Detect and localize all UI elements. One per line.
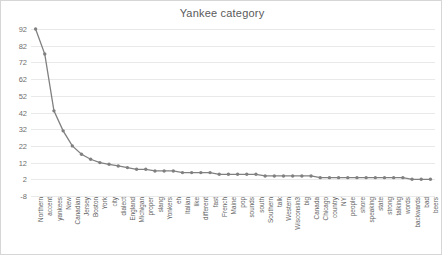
x-tick-label-text: eh	[176, 197, 182, 204]
data-point	[383, 176, 386, 179]
data-point	[61, 129, 64, 132]
x-tick-label: Italian	[185, 197, 191, 214]
y-tick-label: 72	[3, 58, 27, 67]
x-tick-label-text: Northern	[38, 197, 44, 222]
x-tick-label-text: sounds	[249, 197, 255, 218]
data-point	[236, 173, 239, 176]
x-tick-label: speaking	[369, 197, 375, 223]
y-tick-label: 42	[3, 108, 27, 117]
x-tick-label-text: state	[378, 197, 384, 211]
x-tick-label-text: York	[102, 197, 108, 210]
x-tick-label-text: country	[332, 197, 338, 218]
x-tick-label: eh	[176, 197, 182, 204]
x-tick-label: slang	[158, 197, 164, 212]
data-point	[218, 173, 221, 176]
series-markers	[34, 27, 432, 181]
x-tick-label-text: dialect	[121, 197, 127, 215]
x-tick-label: New	[66, 197, 72, 210]
x-tick-label-text: south	[259, 197, 265, 213]
x-tick-label: like	[194, 197, 200, 207]
data-point	[273, 174, 276, 177]
x-tick-label: Canadian	[75, 197, 81, 224]
x-tick-label-text: NY	[341, 197, 347, 206]
x-tick-label-text: Western	[286, 197, 292, 221]
data-point	[89, 158, 92, 161]
y-tick-label: 22	[3, 141, 27, 150]
data-point	[208, 171, 211, 174]
data-point	[126, 166, 129, 169]
x-tick-label: different	[203, 197, 209, 220]
x-tick-label: country	[332, 197, 338, 218]
chart-title: Yankee category	[1, 7, 442, 19]
x-tick-label: talking	[396, 197, 402, 215]
series-polyline	[36, 29, 431, 179]
x-tick-label: fast	[213, 197, 219, 207]
data-point	[254, 173, 257, 176]
y-tick-label: 82	[3, 41, 27, 50]
data-point	[392, 176, 395, 179]
x-tick-label: Western	[286, 197, 292, 221]
data-point	[43, 52, 46, 55]
plot-area	[31, 29, 435, 196]
x-tick-label: Yonkers	[167, 197, 173, 220]
x-tick-label: pop	[240, 197, 246, 208]
x-tick-label: York	[102, 197, 108, 210]
x-tick-label-text: Southern	[268, 197, 274, 223]
x-tick-label-text: Maine	[231, 197, 237, 214]
x-tick-label-text: proper	[148, 197, 154, 215]
data-point	[319, 176, 322, 179]
x-tick-label: Jersey	[84, 197, 90, 216]
x-tick-label-text: Jersey	[84, 197, 90, 216]
x-tick-label-text: slang	[158, 197, 164, 212]
x-tick-label: proper	[148, 197, 154, 215]
x-tick-label-text: backwards	[415, 197, 421, 228]
x-tick-label-text: strong	[387, 197, 393, 215]
x-tick-label-text: England	[130, 197, 136, 220]
x-tick-label-text: talk	[277, 197, 283, 207]
data-point	[98, 161, 101, 164]
x-tick-label: state	[378, 197, 384, 211]
x-tick-label-text: big	[304, 197, 310, 206]
x-tick-label-text: speaking	[369, 197, 375, 223]
data-point	[190, 171, 193, 174]
x-tick-label-text: Wisconsin3	[295, 197, 301, 230]
x-tick-label-text: people	[350, 197, 356, 216]
x-tick-label-text: bad	[424, 197, 430, 208]
x-tick-label-text: Canadian	[75, 197, 81, 224]
data-point	[107, 163, 110, 166]
data-point	[410, 178, 413, 181]
x-tick-label-text: French	[222, 197, 228, 217]
data-series-line	[31, 29, 435, 196]
data-point	[172, 169, 175, 172]
x-tick-label: Boston	[93, 197, 99, 217]
y-tick-label: 62	[3, 75, 27, 84]
x-tick-label-text: pop	[240, 197, 246, 208]
data-point	[117, 164, 120, 167]
x-tick-label: people	[350, 197, 356, 216]
data-point	[144, 168, 147, 171]
data-point	[355, 176, 358, 179]
y-tick-label: 12	[3, 158, 27, 167]
data-point	[364, 176, 367, 179]
x-tick-label: city	[112, 197, 118, 207]
x-axis-tick-labels: NorthernaccentyankeesNewCanadianJerseyBo…	[31, 197, 435, 255]
x-tick-label-text: Boston	[93, 197, 99, 217]
x-tick-label: accent	[47, 197, 53, 216]
data-point	[263, 174, 266, 177]
data-point	[199, 171, 202, 174]
x-tick-label-text: city	[112, 197, 118, 207]
x-tick-label: sounds	[249, 197, 255, 218]
x-tick-label-text: Michigan	[139, 197, 145, 223]
x-tick-label-text: beers	[433, 197, 439, 213]
data-point	[135, 168, 138, 171]
y-tick-label: -8	[3, 192, 27, 201]
data-point	[34, 27, 37, 30]
x-tick-label-text: Canada	[314, 197, 320, 219]
x-tick-label-text: like	[194, 197, 200, 207]
x-tick-label: bad	[424, 197, 430, 208]
x-tick-label: Canada	[314, 197, 320, 219]
x-tick-label: Chicago	[323, 197, 329, 220]
data-point	[181, 171, 184, 174]
x-tick-label-text: Yonkers	[167, 197, 173, 220]
x-tick-label: England	[130, 197, 136, 220]
